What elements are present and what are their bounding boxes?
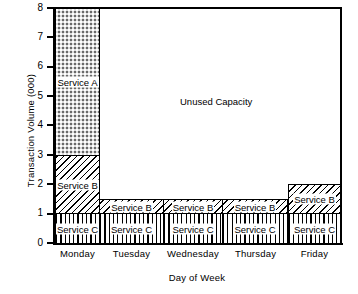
segment-label-service-c: Service C (164, 223, 222, 234)
segment-label-service-c: Service C (56, 223, 99, 234)
bar-tuesday-service-c: Service C (99, 213, 164, 244)
segment-label-service-b: Service B (164, 201, 222, 212)
x-tick-label-monday: Monday (50, 248, 105, 259)
y-tick-6 (47, 66, 55, 68)
y-tick-2 (47, 183, 55, 185)
segment-label-service-c: Service C (289, 223, 340, 234)
x-tick-label-tuesday: Tuesday (104, 248, 159, 259)
segment-label-service-b: Service B (223, 201, 287, 212)
segment-label-service-b: Service B (100, 201, 163, 212)
x-tick-label-friday: Friday (287, 248, 342, 259)
segment-label-service-c: Service C (100, 223, 163, 234)
bar-thursday-service-c: Service C (222, 213, 288, 244)
y-tick-8 (47, 7, 55, 9)
y-tick-label-5: 5 (28, 91, 43, 101)
bar-monday-service-b: Service B (55, 155, 100, 214)
y-tick-label-3: 3 (28, 150, 43, 160)
bar-wednesday-service-b: Service B (163, 199, 223, 214)
bar-wednesday-service-c: Service C (163, 213, 223, 244)
bar-friday-service-b: Service B (288, 184, 341, 214)
y-tick-0 (47, 242, 55, 244)
bar-tuesday-service-b: Service B (99, 199, 164, 214)
y-tick-5 (47, 95, 55, 97)
y-tick-label-2: 2 (28, 179, 43, 189)
y-tick-3 (47, 154, 55, 156)
bar-friday-service-c: Service C (288, 213, 341, 244)
segment-label-service-b: Service B (289, 194, 340, 205)
y-tick-7 (47, 36, 55, 38)
y-tick-label-4: 4 (28, 120, 43, 130)
y-tick-label-8: 8 (28, 3, 43, 13)
y-tick-label-1: 1 (28, 208, 43, 218)
x-tick-label-thursday: Thursday (227, 248, 284, 259)
y-tick-4 (47, 124, 55, 126)
y-tick-label-0: 0 (28, 238, 43, 248)
x-axis-title: Day of Week (53, 272, 341, 283)
segment-label-service-a: Service A (56, 77, 99, 88)
stacked-bar-chart: Transaction Volume (000) 8 7 6 5 4 3 2 1… (0, 0, 358, 294)
y-tick-label-7: 7 (28, 32, 43, 42)
unused-capacity-label: Unused Capacity (180, 96, 252, 107)
y-tick-label-6: 6 (28, 61, 43, 71)
bar-monday-service-c: Service C (55, 213, 100, 244)
segment-label-service-b: Service B (56, 179, 99, 190)
bar-monday-service-a: Service A (55, 8, 100, 156)
bar-thursday-service-b: Service B (222, 199, 288, 214)
x-tick-label-wednesday: Wednesday (160, 248, 226, 259)
segment-label-service-c: Service C (223, 223, 287, 234)
y-tick-1 (47, 213, 55, 215)
